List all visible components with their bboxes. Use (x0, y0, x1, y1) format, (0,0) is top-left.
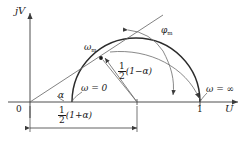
omega-m-point (99, 56, 103, 60)
omega-infinity-leader (200, 93, 207, 102)
phi-m-angle-arc (128, 30, 163, 51)
unit-tick-label: 1 (197, 105, 203, 114)
phi-m-pointer (163, 51, 174, 95)
origin-label: 0 (16, 105, 22, 114)
axis-label-vertical: jV (15, 6, 25, 16)
omega-zero-leader (72, 92, 82, 102)
alpha-label: α (58, 91, 64, 100)
omega-zero-label: ω = 0 (81, 84, 107, 93)
phi-m-label: φm (161, 26, 173, 36)
omega-m-label: ωm (84, 43, 97, 53)
omega-infinity-label: ω = ∞ (206, 85, 234, 94)
axis-label-horizontal: U (225, 104, 233, 114)
half-one-plus-alpha-label: 1 2 (1+α) (58, 106, 92, 125)
half-one-minus-alpha-label: 1 2 (1−α) (118, 62, 152, 81)
circle-diagram-figure: jV U 0 1 ωm φm α ω = 0 ω = ∞ 1 2 (1−α) 1… (0, 0, 248, 142)
